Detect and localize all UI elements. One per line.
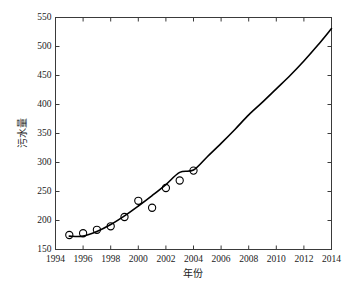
x-tick-label: 1994 bbox=[46, 254, 65, 264]
x-axis-tick-labels: 1994199619982000200220042006200820102012… bbox=[46, 254, 341, 264]
x-axis-title: 年份 bbox=[183, 267, 203, 279]
y-tick-label: 350 bbox=[37, 128, 52, 138]
chart-container: 150200250300350400450500550 199419961998… bbox=[0, 0, 356, 290]
y-tick-label: 500 bbox=[37, 41, 52, 51]
x-tick-label: 2014 bbox=[322, 254, 341, 264]
y-axis-tick-labels: 150200250300350400450500550 bbox=[37, 12, 52, 254]
y-tick-label: 150 bbox=[37, 244, 52, 254]
x-tick-label: 2010 bbox=[267, 254, 286, 264]
x-tick-label: 2004 bbox=[184, 254, 203, 264]
y-tick-label: 550 bbox=[37, 12, 52, 22]
x-tick-label: 2008 bbox=[239, 254, 258, 264]
y-tick-label: 400 bbox=[37, 99, 52, 109]
plot-frame bbox=[56, 18, 332, 250]
y-tick-label: 450 bbox=[37, 70, 52, 80]
y-axis-title: 污水量 bbox=[17, 118, 28, 148]
x-tick-label: 1998 bbox=[101, 254, 120, 264]
x-tick-label: 2006 bbox=[212, 254, 231, 264]
y-tick-label: 250 bbox=[37, 186, 52, 196]
chart-svg: 150200250300350400450500550 199419961998… bbox=[0, 0, 356, 290]
x-tick-label: 1996 bbox=[74, 254, 93, 264]
x-tick-label: 2002 bbox=[156, 254, 175, 264]
y-tick-label: 300 bbox=[37, 157, 52, 167]
y-tick-label: 200 bbox=[37, 215, 52, 225]
x-tick-label: 2012 bbox=[294, 254, 313, 264]
x-tick-label: 2000 bbox=[129, 254, 148, 264]
